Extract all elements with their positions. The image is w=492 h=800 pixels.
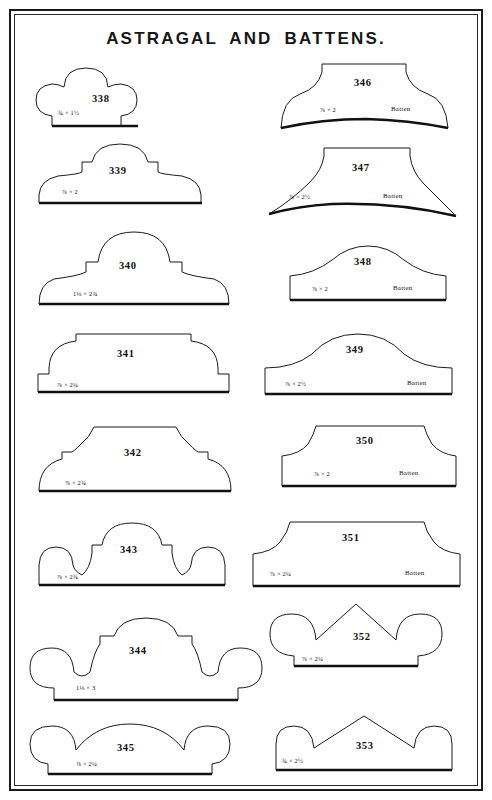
- figure-dimension-351: ⅞ × 2¼: [270, 570, 291, 577]
- figure-dimension-346: ⅞ × 2: [320, 106, 336, 113]
- profile-drawing-344: [24, 616, 274, 704]
- figure-number-344: 344: [129, 645, 147, 656]
- figure-dimension-338: ¾ × 1½: [58, 109, 79, 116]
- figure-number-346: 346: [354, 77, 372, 88]
- figure-number-343: 343: [120, 544, 138, 555]
- figure-number-339: 339: [109, 165, 127, 176]
- figure-dimension-353: ¾ × 2½: [282, 757, 303, 764]
- figure-batten-label-350: Batten: [399, 469, 418, 477]
- figure-dimension-344: 1⅛ × 3: [76, 684, 96, 691]
- figure-number-340: 340: [119, 260, 137, 271]
- page-title: ASTRAGAL AND BATTENS.: [0, 29, 492, 49]
- profile-drawing-346: [278, 60, 454, 132]
- figure-dimension-339: ⅞ × 2: [62, 188, 78, 195]
- figure-dimension-350: ⅞ × 2: [314, 470, 330, 477]
- catalog-plate: ASTRAGAL AND BATTENS. 338 ¾ × 1½ 339 ⅞ ×…: [0, 0, 492, 800]
- figure-number-338: 338: [92, 93, 110, 104]
- figure-dimension-340: 1⅛ × 2¾: [73, 290, 98, 297]
- figure-number-347: 347: [352, 162, 370, 173]
- profile-drawing-349: [262, 328, 462, 398]
- figure-349: 349 ⅞ × 2½ Batten: [262, 328, 462, 398]
- figure-341: 341 ⅞ × 2¼: [35, 330, 235, 396]
- profile-drawing-351: [250, 518, 465, 590]
- profile-drawing-347: [266, 144, 466, 220]
- figure-342: 342 ⅞ × 2¾: [36, 423, 236, 495]
- figure-batten-label-347: Batten: [383, 192, 402, 200]
- figure-350: 350 ⅞ × 2 Batten: [278, 422, 460, 490]
- figure-number-353: 353: [356, 740, 374, 751]
- profile-drawing-348: [280, 240, 460, 304]
- figure-dimension-348: ⅞ × 2: [312, 285, 328, 292]
- figure-345: 345 ⅞ × 2¼: [26, 716, 246, 778]
- profile-drawing-345: [26, 716, 246, 778]
- figure-dimension-342: ⅞ × 2¾: [65, 479, 86, 486]
- figure-dimension-347: ⅞ × 2½: [289, 193, 310, 200]
- figure-dimension-343: ⅞ × 2¾: [57, 573, 78, 580]
- figure-347: 347 ⅞ × 2½ Batten: [266, 144, 466, 220]
- figure-dimension-345: ⅞ × 2¼: [76, 760, 97, 767]
- figure-batten-label-351: Batten: [405, 569, 424, 577]
- figure-number-341: 341: [117, 348, 135, 359]
- figure-338: 338 ¾ × 1½: [34, 58, 174, 128]
- figure-number-350: 350: [356, 435, 374, 446]
- figure-batten-label-349: Batten: [407, 379, 426, 387]
- figure-number-345: 345: [117, 742, 135, 753]
- profile-drawing-350: [278, 422, 460, 490]
- figure-343: 343 ⅞ × 2¾: [34, 519, 234, 589]
- figure-339: 339 ⅞ × 2: [36, 142, 216, 206]
- figure-dimension-341: ⅞ × 2¼: [57, 381, 78, 388]
- figure-352: 352 ⅞ × 2¼: [264, 600, 454, 670]
- figure-351: 351 ⅞ × 2¼ Batten: [250, 518, 465, 590]
- figure-number-342: 342: [124, 447, 142, 458]
- figure-340: 340 1⅛ × 2¾: [36, 228, 236, 308]
- figure-353: 353 ¾ × 2½: [272, 712, 462, 774]
- figure-number-349: 349: [346, 344, 364, 355]
- figure-348: 348 ⅞ × 2 Batten: [280, 240, 460, 304]
- figure-dimension-352: ⅞ × 2¼: [302, 655, 323, 662]
- figure-number-351: 351: [342, 532, 360, 543]
- figure-number-348: 348: [354, 256, 372, 267]
- figure-346: 346 ⅞ × 2 Batten: [278, 60, 454, 132]
- figure-batten-label-348: Batten: [393, 284, 412, 292]
- figure-344: 344 1⅛ × 3: [24, 616, 274, 704]
- figure-dimension-349: ⅞ × 2½: [285, 380, 306, 387]
- figure-number-352: 352: [353, 631, 371, 642]
- figure-batten-label-346: Batten: [391, 105, 410, 113]
